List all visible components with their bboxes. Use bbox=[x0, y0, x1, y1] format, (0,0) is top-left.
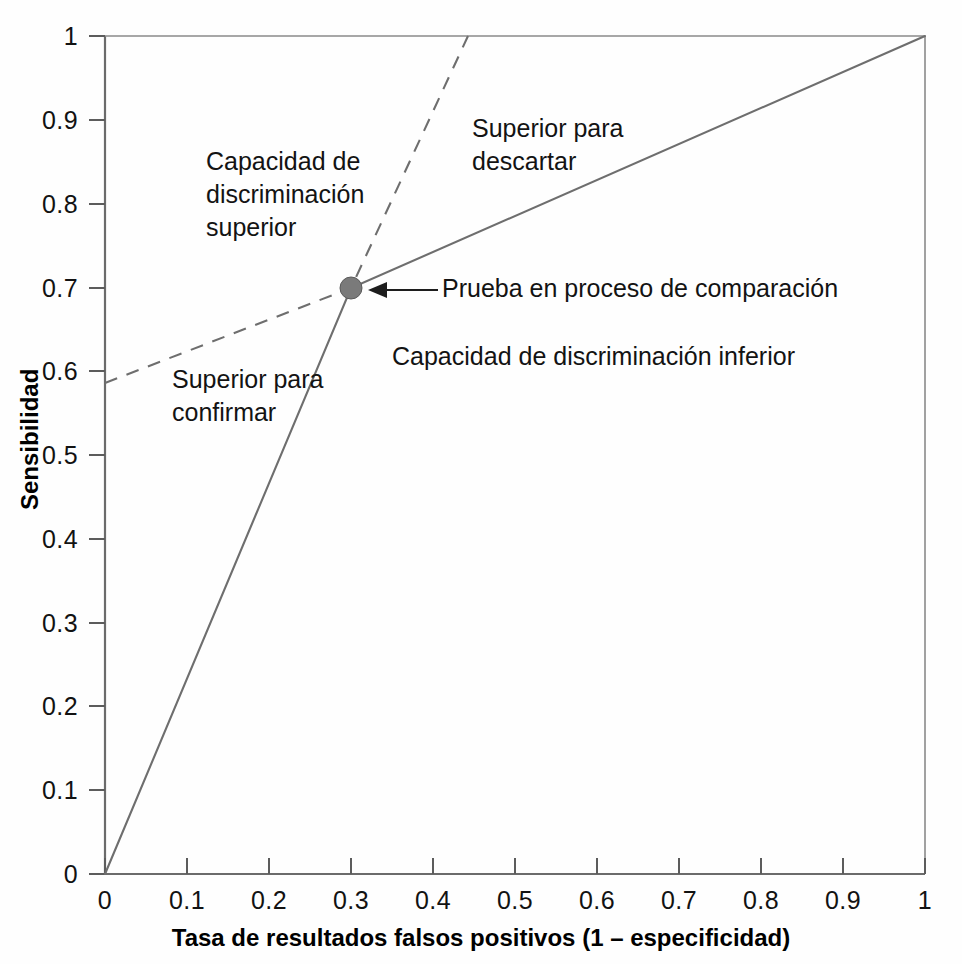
x-tick-label-2: 0.2 bbox=[251, 886, 287, 915]
y-tick-label-0: 0 bbox=[16, 860, 78, 889]
annotation-superior-discrimination: Capacidad de discriminación superior bbox=[206, 145, 364, 244]
annotation-test-under-comparison: Prueba en proceso de comparación bbox=[442, 272, 838, 305]
x-tick-label-8: 0.8 bbox=[743, 886, 779, 915]
x-axis-title: Tasa de resultados falsos positivos (1 –… bbox=[0, 924, 962, 952]
x-tick-label-5: 0.5 bbox=[497, 886, 533, 915]
y-tick-label-7: 0.7 bbox=[16, 274, 78, 303]
x-tick-label-7: 0.7 bbox=[661, 886, 697, 915]
x-tick-label-1: 0.1 bbox=[169, 886, 205, 915]
x-tick-label-3: 0.3 bbox=[333, 886, 369, 915]
y-axis-title: Sensibilidad bbox=[16, 369, 44, 510]
x-tick-label-0: 0 bbox=[98, 886, 112, 915]
annotation-lower-discrimination: Capacidad de discriminación inferior bbox=[392, 340, 795, 373]
y-tick-label-4: 0.4 bbox=[16, 525, 78, 554]
x-tick-label-6: 0.6 bbox=[579, 886, 615, 915]
y-axis-ticks bbox=[89, 36, 105, 874]
operating-point-marker[interactable] bbox=[340, 277, 362, 299]
y-tick-label-9: 0.9 bbox=[16, 106, 78, 135]
y-tick-label-3: 0.3 bbox=[16, 609, 78, 638]
y-tick-label-10: 1 bbox=[16, 22, 78, 51]
annotation-superior-rule-out: Superior para descartar bbox=[472, 112, 623, 178]
x-tick-label-4: 0.4 bbox=[415, 886, 451, 915]
x-tick-label-9: 0.9 bbox=[825, 886, 861, 915]
annotation-superior-rule-in: Superior para confirmar bbox=[172, 363, 323, 429]
x-axis-ticks bbox=[105, 858, 925, 874]
y-tick-label-8: 0.8 bbox=[16, 190, 78, 219]
x-tick-label-10: 1 bbox=[918, 886, 932, 915]
y-tick-label-2: 0.2 bbox=[16, 692, 78, 721]
y-tick-label-1: 0.1 bbox=[16, 776, 78, 805]
comparison-test-callout-arrow bbox=[368, 282, 438, 298]
roc-chart-figure: 0 0.1 0.2 0.3 0.4 0.5 0.6 0.7 0.8 0.9 1 … bbox=[0, 0, 962, 964]
